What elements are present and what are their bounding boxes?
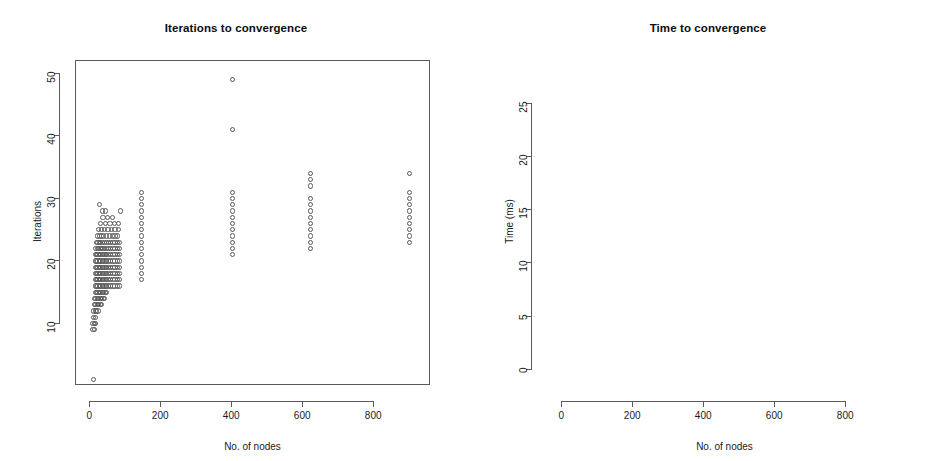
data-point [230,190,235,195]
data-point [308,183,313,188]
x-axis-tick-label: 400 [695,410,712,421]
data-point [103,208,108,213]
data-point [407,190,412,195]
x-axis-title-right: No. of nodes [696,441,753,452]
x-axis-tick-label: 800 [837,410,854,421]
data-point [230,202,235,207]
data-point [230,252,235,257]
data-point [230,240,235,245]
data-point [139,265,144,270]
data-point [139,202,144,207]
data-point [110,215,115,220]
data-point [139,240,144,245]
data-point [139,277,144,282]
data-point [139,215,144,220]
data-point [139,258,144,263]
y-axis-tick-label: 50 [46,71,57,93]
x-axis-tick-label: 600 [294,410,311,421]
data-point [230,215,235,220]
x-axis-tick [373,401,374,407]
data-point [97,202,102,207]
data-point [407,227,412,232]
y-axis-line [531,103,532,369]
panel-iterations-to-convergence: Iterations to convergence 02004006008001… [0,0,472,461]
x-axis-tick-label: 200 [624,410,641,421]
data-point [308,215,313,220]
data-point [308,233,313,238]
data-point [230,246,235,251]
data-point [230,233,235,238]
x-axis-tick [632,401,633,407]
y-axis-tick-label: 10 [46,321,57,343]
scatter-points-left [76,61,429,384]
y-axis-tick-label: 40 [46,134,57,156]
x-axis-tick-label: 200 [152,410,169,421]
y-axis-tick-label: 15 [518,208,529,230]
x-axis-tick-label: 0 [86,410,92,421]
y-axis-tick-label: 20 [46,259,57,281]
panel-title-left: Iterations to convergence [0,22,472,34]
data-point [92,327,97,332]
data-point [139,227,144,232]
data-point [230,77,235,82]
data-point [139,196,144,201]
x-axis-tick-label: 800 [365,410,382,421]
y-axis-tick-label: 0 [518,368,529,390]
data-point [407,202,412,207]
data-point [230,208,235,213]
x-axis-tick-label: 600 [766,410,783,421]
data-point [308,177,313,182]
data-point [308,221,313,226]
data-point [117,283,122,288]
data-point [139,246,144,251]
data-point [230,227,235,232]
data-point [230,127,235,132]
data-point [115,233,120,238]
x-axis-tick [845,401,846,407]
data-point [116,221,121,226]
data-point [91,377,96,382]
data-point [308,196,313,201]
figure-canvas: Iterations to convergence 02004006008001… [0,0,944,461]
data-point [139,190,144,195]
plot-frame-left [75,60,430,385]
x-axis-tick [89,401,90,407]
y-axis-title-left: Iterations [32,191,43,251]
y-axis-tick-label: 10 [518,261,529,283]
data-point [118,208,123,213]
data-point [93,321,98,326]
y-axis-title-right: Time (ms) [504,191,515,251]
x-axis-tick [703,401,704,407]
data-point [139,233,144,238]
data-point [308,208,313,213]
data-point [139,208,144,213]
data-point [230,221,235,226]
y-axis-tick-label: 30 [46,196,57,218]
data-point [308,246,313,251]
x-axis-tick-label: 0 [558,410,564,421]
data-point [139,271,144,276]
data-point [139,252,144,257]
data-point [117,258,122,263]
data-point [116,227,121,232]
data-point [117,277,122,282]
x-axis-tick [561,401,562,407]
data-point [308,227,313,232]
data-point [117,240,122,245]
panel-title-right: Time to convergence [472,22,944,34]
data-point [93,315,98,320]
x-axis-tick [160,401,161,407]
data-point [407,215,412,220]
x-axis-tick-label: 400 [223,410,240,421]
data-point [104,290,109,295]
data-point [139,221,144,226]
data-point [407,240,412,245]
panel-time-to-convergence: Time to convergence 02004006008000510152… [472,0,944,461]
x-axis-tick [774,401,775,407]
data-point [407,221,412,226]
data-point [117,271,122,276]
data-point [117,246,122,251]
data-point [407,171,412,176]
x-axis-tick [231,401,232,407]
data-point [117,265,122,270]
